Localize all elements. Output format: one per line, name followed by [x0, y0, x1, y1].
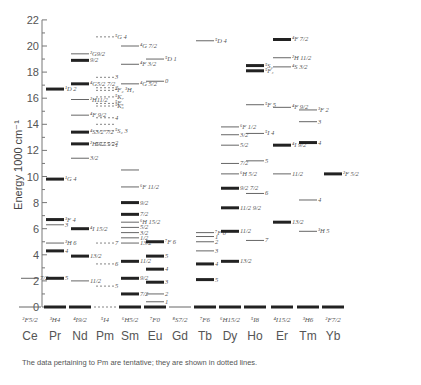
level-label: 6 — [265, 189, 269, 196]
level-label: 5/2 — [240, 141, 249, 148]
level-label: ⁴I 15/2 — [90, 225, 108, 232]
energy-level-chart: 0246810121416182022 7/254³H 63³F 4¹G 4¹D… — [0, 0, 421, 385]
level-label: ⁷F 6 — [165, 238, 177, 245]
level-label: 13/2 — [90, 252, 102, 259]
level-label: 3 — [164, 278, 169, 285]
level-label: 13/2 — [240, 257, 252, 264]
level-label: ²H 11/2 — [292, 54, 312, 61]
y-tick-label: 2 — [33, 275, 39, 287]
level-label: 3 — [214, 247, 219, 254]
level-label: 1 — [165, 298, 168, 305]
caption: The data pertaining to Pm are tentative;… — [22, 358, 257, 367]
ground-state-label: ⁵I4 — [101, 316, 110, 324]
level-label: 4 — [165, 265, 169, 272]
level-label: ⁵F₃ — [115, 99, 124, 106]
level-label: ⁶H 5/2 — [240, 170, 258, 177]
element-label-tb: Tb — [198, 329, 212, 343]
level-label: 0 — [165, 77, 169, 84]
ground-state-label: ⁷F6 — [200, 316, 211, 324]
y-tick-label: 20 — [27, 40, 39, 52]
y-tick-label: 6 — [33, 223, 39, 235]
level-label: ⁵F 5 — [265, 101, 277, 108]
y-tick-label: 8 — [33, 197, 39, 209]
ground-state-label: ⁴I15/2 — [273, 316, 291, 324]
element-label-pr: Pr — [49, 329, 61, 343]
level-label: 5 — [115, 282, 119, 289]
level-label: ⁵D 1 — [165, 55, 177, 62]
level-label: 3 — [317, 118, 322, 125]
level-label: 5 — [265, 157, 269, 164]
level-label: 11/2 — [140, 257, 152, 264]
column-yb: ²F 5/2 — [322, 170, 360, 307]
level-label: ³H 6 — [65, 239, 77, 246]
element-label-er: Er — [276, 329, 288, 343]
ground-state-label: ²F7/2 — [325, 316, 341, 324]
level-label: 4 — [115, 114, 119, 121]
level-label: 11/2 — [240, 227, 252, 234]
element-label-pm: Pm — [96, 329, 114, 343]
element-label-nd: Nd — [72, 329, 87, 343]
level-label: 9/2 — [90, 56, 99, 63]
column-tm: ³H 5443³F 2 — [297, 106, 330, 307]
level-label: 3/2 — [89, 154, 99, 161]
ground-state-label: ⁵I8 — [251, 316, 260, 324]
level-label: ⁴S3/2 7/2 — [90, 128, 114, 135]
level-label: 2 — [115, 139, 119, 146]
element-label-sm: Sm — [121, 329, 139, 343]
level-label: 11/2 — [90, 277, 102, 284]
ground-state-label: ³H4 — [50, 316, 61, 324]
ground-state-label: ⁶H15/2 — [220, 316, 240, 324]
element-label-gd: Gd — [172, 329, 188, 343]
level-label: 5 — [215, 276, 219, 283]
ground-state-label: ³H6 — [303, 316, 314, 324]
y-tick-label: 18 — [27, 66, 39, 78]
level-label: ³F 4 — [65, 216, 77, 223]
level-label: 3/2 — [239, 131, 249, 138]
level-label: 7 — [115, 239, 119, 246]
level-label: ¹G 4 — [65, 175, 77, 182]
level-label: ⁴F 9/2 — [292, 103, 309, 110]
level-label: ⁵I 4 — [265, 129, 275, 136]
level-label: 11/2 — [292, 170, 304, 177]
level-label: ⁵D 4 — [215, 37, 228, 44]
level-label: 5 — [165, 252, 169, 259]
level-label: ⁴F 9/2 — [90, 111, 107, 118]
level-label: 6 — [115, 260, 119, 267]
column-eu: 12345⁷F 60⁵D 1 — [144, 55, 177, 307]
level-label: ⁴S 3/2 — [292, 63, 308, 70]
level-label: ²H9/2 5/2 — [90, 140, 116, 147]
ground-state-label: ⁶H5/2 — [122, 316, 139, 324]
level-label: ⁶F 11/2 — [140, 183, 160, 190]
ground-state-label: ²F5/2 — [22, 316, 38, 324]
column-dy: 13/211/211/2 9/29/2 7/2⁶H 5/27/25/23/2⁶F… — [219, 123, 262, 307]
level-label: ²F 5/2 — [343, 170, 360, 177]
energy-levels: 7/254³H 63³F 4¹G 4¹D 211/213/2⁴I 15/23/2… — [19, 33, 360, 307]
level-label: 7/2 — [140, 210, 149, 217]
column-er: 13/211/2⁴I 9/2⁴F 9/2⁴S 3/2²H 11/2⁴F 7/2 — [271, 35, 312, 307]
level-label: ²G9/2 — [90, 50, 106, 57]
level-label: ³F 2 — [318, 106, 330, 113]
level-label: ⁴F 7/2 — [292, 35, 309, 42]
ground-state-label: ⁴I9/2 — [73, 316, 87, 324]
y-tick-label: 10 — [27, 171, 39, 183]
level-label: 5 — [65, 274, 69, 281]
level-label: ⁴G 7/2 — [140, 42, 158, 49]
y-tick-label: 12 — [27, 144, 39, 156]
level-label: ⁴G5/2 7/2 — [90, 80, 116, 87]
column-sm: 7/29/211/213/21/23/25/2⁶H 15/27/29/2⁶F 1… — [119, 42, 161, 307]
level-label: 4 — [318, 139, 322, 146]
element-label-yb: Yb — [326, 329, 341, 343]
level-label: 9/2 7/2 — [240, 184, 259, 191]
level-label: ⁵S₂ 3 — [115, 127, 128, 134]
level-label: ¹D 2 — [65, 85, 77, 92]
level-label: ⁵K₇ — [115, 93, 125, 100]
level-label: ⁶H 15/2 — [140, 218, 161, 225]
level-label: 4 — [65, 247, 69, 254]
level-label: ³H 5 — [318, 227, 330, 234]
y-axis: 0246810121416182022 — [27, 14, 47, 313]
level-label: ⁵S₂ — [265, 62, 274, 69]
element-label-dy: Dy — [223, 329, 238, 343]
level-label: 2 — [165, 290, 169, 297]
level-label: 11/2 9/2 — [240, 204, 262, 211]
level-label: 9/2 — [140, 199, 149, 206]
